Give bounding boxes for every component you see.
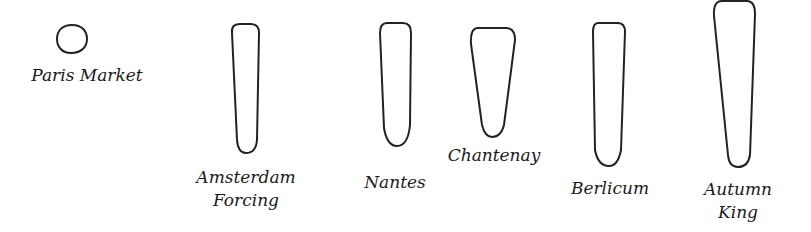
berlicum-label: Berlicum — [560, 177, 660, 200]
autumn-king-root-shape — [714, 1, 755, 167]
chantenay-root-shape — [471, 28, 515, 137]
chantenay-label: Chantenay — [438, 144, 550, 167]
chantenay-label-text: Chantenay — [448, 145, 541, 165]
nantes-label-text: Nantes — [364, 172, 426, 192]
paris-market-root-shape — [57, 25, 87, 53]
nantes-label: Nantes — [350, 171, 440, 194]
autumn-king-label: Autumn King — [693, 178, 783, 224]
carrot-shapes-diagram — [0, 0, 811, 232]
amsterdam-forcing-root-shape — [232, 24, 259, 153]
autumn-king-label-line-2: King — [693, 201, 783, 224]
berlicum-label-text: Berlicum — [571, 178, 649, 198]
nantes-root-shape — [380, 23, 411, 146]
paris-market-label: Paris Market — [22, 64, 152, 87]
berlicum-root-shape — [593, 23, 625, 166]
autumn-king-label-line-1: Autumn — [693, 178, 783, 201]
amsterdam-forcing-label-line-2: Forcing — [190, 189, 302, 212]
amsterdam-forcing-label-line-1: Amsterdam — [190, 166, 302, 189]
paris-market-label-text: Paris Market — [31, 65, 142, 85]
amsterdam-forcing-label: Amsterdam Forcing — [190, 166, 302, 212]
